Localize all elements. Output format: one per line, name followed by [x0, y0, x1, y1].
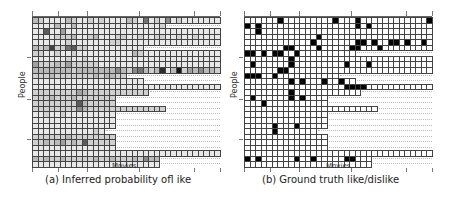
missing-entries [329, 141, 432, 143]
x-tick [299, 11, 300, 16]
x-tick [58, 11, 59, 16]
x-tick [244, 168, 245, 172]
y-axis-label: People [230, 71, 239, 98]
missing-entries [161, 158, 220, 160]
x-tick [87, 11, 88, 16]
x-tick [406, 11, 407, 16]
missing-entries [117, 141, 220, 143]
x-tick [32, 11, 33, 16]
missing-entries [117, 136, 220, 138]
missing-entries [379, 108, 432, 110]
x-tick [244, 11, 245, 16]
missing-entries [117, 147, 220, 149]
x-tick [299, 168, 300, 172]
x-tick [220, 168, 221, 172]
panel-b: People Movies (b) Ground truth like/disl… [226, 0, 452, 203]
x-tick [432, 11, 433, 16]
missing-entries [128, 75, 220, 77]
heatmap-inferred-probability [32, 16, 220, 169]
missing-entries [362, 91, 432, 93]
missing-entries [357, 52, 432, 54]
missing-entries [167, 108, 220, 110]
missing-entries [150, 91, 220, 93]
caption-a: (a) Inferred probability ofl ike [45, 174, 191, 185]
x-tick [432, 168, 433, 172]
rating-cell [366, 161, 373, 168]
y-tick [27, 139, 31, 140]
y-tick [27, 99, 31, 100]
missing-entries [106, 130, 220, 132]
x-tick [351, 168, 352, 172]
y-axis-label: People [18, 71, 27, 98]
heatmap-ground-truth [244, 16, 432, 169]
missing-entries [329, 125, 432, 127]
missing-entries [373, 163, 432, 165]
missing-entries [117, 97, 220, 99]
x-tick [139, 168, 140, 172]
caption-b: (b) Ground truth like/dislike [262, 174, 399, 185]
x-tick [139, 11, 140, 16]
x-tick [270, 168, 271, 172]
x-tick [58, 168, 59, 172]
x-tick [194, 11, 195, 16]
x-tick [220, 11, 221, 16]
x-tick [194, 168, 195, 172]
rating-cell [154, 161, 161, 168]
missing-entries [329, 102, 432, 104]
missing-entries [340, 75, 432, 77]
missing-entries [117, 102, 220, 104]
missing-entries [167, 25, 220, 27]
missing-entries [329, 136, 432, 138]
missing-entries [117, 113, 220, 115]
x-tick [406, 168, 407, 172]
missing-entries [117, 119, 220, 121]
y-tick [239, 139, 243, 140]
x-axis-label: Movies [112, 162, 136, 170]
missing-entries [145, 80, 220, 82]
missing-entries [161, 163, 220, 165]
missing-entries [117, 125, 220, 127]
x-tick [87, 168, 88, 172]
missing-entries [329, 113, 432, 115]
x-tick [270, 11, 271, 16]
missing-entries [329, 119, 432, 121]
y-tick [27, 57, 31, 58]
missing-entries [373, 158, 432, 160]
missing-entries [145, 47, 220, 49]
x-axis-label: Movies [326, 162, 350, 170]
x-tick [32, 168, 33, 172]
x-tick [351, 11, 352, 16]
missing-entries [329, 97, 432, 99]
y-tick [239, 57, 243, 58]
y-tick [239, 99, 243, 100]
missing-entries [329, 147, 432, 149]
missing-entries [318, 130, 432, 132]
panel-a: People Movies (a) Inferred probability o… [0, 0, 226, 203]
missing-entries [357, 80, 432, 82]
